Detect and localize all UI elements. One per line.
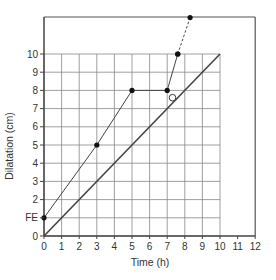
x-tick-label: 4	[112, 241, 118, 252]
y-tick-label: 5	[32, 140, 38, 151]
partogram-chart: 01234567891011120FE2345678910 Time (h) D…	[0, 0, 276, 280]
x-tick-label: 5	[129, 241, 135, 252]
y-tick-label: 0	[32, 231, 38, 242]
y-tick-label: 3	[32, 176, 38, 187]
y-tick-label: 6	[32, 121, 38, 132]
y-tick-label: 9	[32, 67, 38, 78]
x-tick-label: 6	[147, 241, 153, 252]
x-tick-label: 1	[59, 241, 65, 252]
x-tick-label: 9	[200, 241, 206, 252]
annotation-open-circle	[169, 94, 176, 101]
x-tick-label: 8	[182, 241, 188, 252]
y-axis-label: Dilatation (cm)	[3, 112, 15, 180]
x-tick-label: 7	[164, 241, 170, 252]
data-point-marker	[94, 142, 99, 147]
y-tick-label: 10	[27, 49, 39, 60]
x-axis-label: Time (h)	[131, 256, 170, 268]
chart-series	[41, 15, 220, 236]
chart-ticks: 01234567891011120FE2345678910	[25, 49, 261, 253]
x-tick-label: 2	[76, 241, 82, 252]
y-tick-label: 7	[32, 103, 38, 114]
x-tick-label: 11	[232, 241, 243, 252]
data-point-marker	[129, 88, 134, 93]
x-tick-label: 10	[214, 241, 226, 252]
x-tick-label: 0	[41, 241, 47, 252]
data-point-marker	[187, 15, 192, 20]
y-tick-label: 2	[32, 194, 38, 205]
y-tick-label: 4	[32, 158, 38, 169]
data-point-marker	[175, 51, 180, 56]
data-point-marker	[165, 88, 170, 93]
y-tick-label: 8	[32, 85, 38, 96]
series-line	[178, 18, 190, 54]
x-tick-label: 3	[94, 241, 100, 252]
y-tick-label: FE	[25, 212, 38, 223]
series-line	[44, 54, 178, 218]
x-tick-label: 12	[250, 241, 262, 252]
